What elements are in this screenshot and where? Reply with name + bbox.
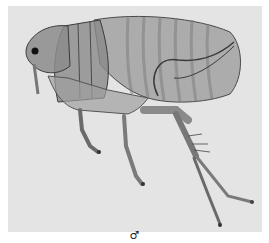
flea-illustration — [8, 6, 262, 232]
flea-hindleg-tarsus-1 — [196, 156, 252, 202]
flea-midleg — [124, 116, 142, 184]
male-symbol-caption: ♂ — [0, 229, 269, 243]
flea-foreleg — [80, 110, 98, 152]
flea-eye — [32, 48, 39, 55]
specimen-photograph — [8, 6, 262, 232]
